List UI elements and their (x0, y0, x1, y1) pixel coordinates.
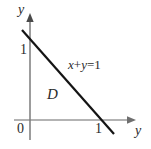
x-axis-tick-one-label: 1 (95, 122, 102, 136)
equation-value: 1 (94, 57, 101, 72)
math-diagram: y y 1 0 1 D x+y=1 (0, 0, 151, 149)
line-equation-label: x+y=1 (68, 58, 101, 71)
horizontal-axis-label: y (135, 124, 141, 138)
vertical-axis-label: y (18, 3, 24, 17)
vertical-axis (26, 13, 33, 140)
origin-label: 0 (17, 122, 24, 136)
region-label-d: D (47, 87, 58, 102)
horizontal-axis (14, 116, 136, 124)
vertical-axis-arrowhead (26, 13, 33, 22)
constraint-line (22, 30, 114, 134)
y-axis-tick-one-label: 1 (20, 43, 27, 57)
